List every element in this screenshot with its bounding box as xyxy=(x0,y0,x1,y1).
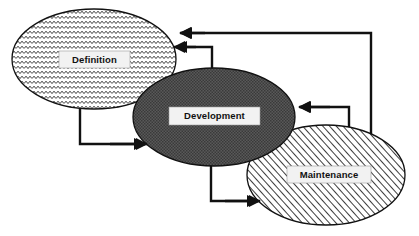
maintenance-label: Maintenance xyxy=(300,169,359,180)
development-label: Development xyxy=(184,110,245,121)
definition-label: Definition xyxy=(72,54,117,65)
diagram-canvas: Definition Maintenance Development xyxy=(0,0,419,236)
lifecycle-diagram: Definition Maintenance Development xyxy=(0,0,419,236)
node-development[interactable]: Development xyxy=(133,68,295,166)
